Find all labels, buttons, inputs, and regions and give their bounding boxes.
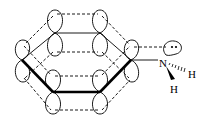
ring-bonds bbox=[22, 33, 131, 60]
overlap-bottom bbox=[24, 52, 130, 110]
lone-pair-dot bbox=[175, 46, 177, 48]
aniline-orbital-diagram: N H H bbox=[0, 0, 206, 126]
wedge-bond bbox=[166, 66, 175, 80]
hydrogen-label: H bbox=[188, 68, 196, 80]
hydrogen-label: H bbox=[170, 83, 178, 95]
lone-pair-dot bbox=[171, 46, 173, 48]
nitrogen-label: N bbox=[159, 57, 167, 69]
hashed-bond bbox=[169, 63, 185, 72]
lone-pair-orbital bbox=[164, 41, 182, 55]
